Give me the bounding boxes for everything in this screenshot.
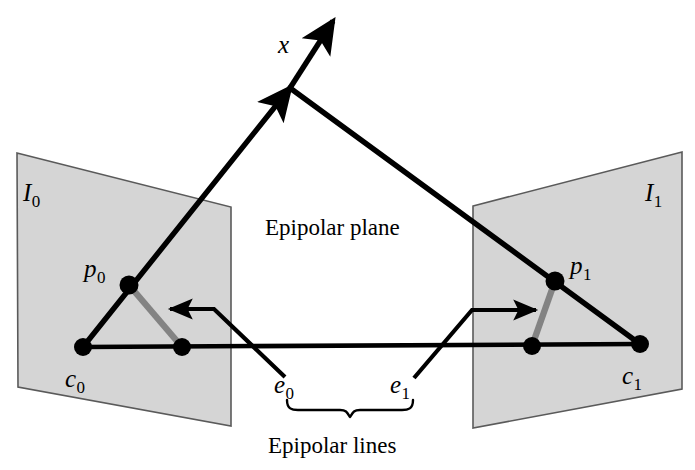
label-image-plane-left: I0: [23, 180, 40, 210]
label-epipolar-lines: Epipolar lines: [268, 434, 396, 457]
label-epipolar-plane: Epipolar plane: [265, 216, 400, 239]
label-epipole-right: e1: [390, 372, 410, 402]
scene-point-arrow: [290, 21, 333, 88]
node-projection-left: [120, 276, 139, 295]
label-projection-left: p0: [84, 256, 106, 286]
label-projection-right: p1: [570, 253, 592, 283]
node-epipole-left: [173, 338, 191, 356]
epipolar-geometry-figure: I0 I1 p0 p1 c0 c1 e0 e1 x Epipolar plane…: [0, 0, 695, 470]
node-camera-center-right: [631, 335, 649, 353]
node-camera-center-left: [74, 338, 92, 356]
label-scene-point: x: [278, 32, 289, 57]
label-epipole-left: e0: [274, 372, 294, 402]
epipolar-lines-brace: [287, 400, 413, 417]
baseline: [83, 344, 640, 347]
label-camera-center-left: c0: [65, 366, 85, 396]
label-image-plane-right: I1: [645, 180, 662, 210]
image-planes: [17, 152, 682, 428]
label-camera-center-right: c1: [622, 363, 642, 393]
node-epipole-right: [523, 337, 541, 355]
node-projection-right: [546, 272, 565, 291]
